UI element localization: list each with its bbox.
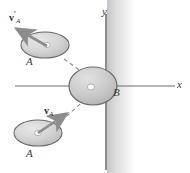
y-axis-label: y xyxy=(102,6,107,17)
x-axis-label: x xyxy=(177,79,182,90)
velocity-a-after-label: v′A xyxy=(9,10,20,25)
velocity-a-before-subscript: A xyxy=(49,110,53,118)
puck-a-before-label: A xyxy=(26,148,33,159)
puck-b-label: B xyxy=(113,87,120,98)
puck-b-center-marker xyxy=(87,84,94,90)
physics-collision-diagram: y x A B A v′A vA xyxy=(0,0,190,173)
velocity-a-after-subscript: A xyxy=(16,17,20,25)
puck-a-after-label: A xyxy=(26,56,33,67)
velocity-a-before-label: vA xyxy=(44,106,53,118)
